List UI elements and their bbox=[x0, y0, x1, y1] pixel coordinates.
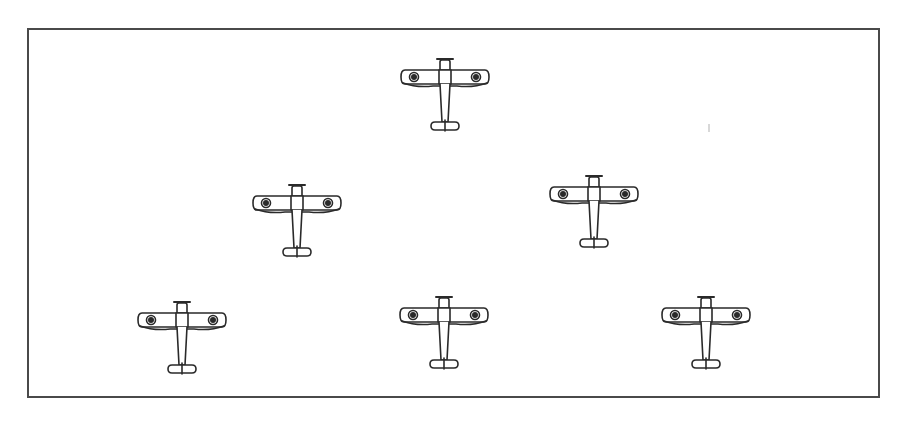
biplane-third-row-center bbox=[396, 294, 492, 374]
biplane-lead bbox=[397, 56, 493, 136]
biplane-second-row-left bbox=[249, 182, 345, 262]
biplane-icon bbox=[546, 173, 642, 253]
biplane-icon bbox=[134, 299, 230, 379]
biplane-icon bbox=[397, 56, 493, 136]
biplane-icon bbox=[396, 294, 492, 374]
biplane-icon bbox=[658, 294, 754, 374]
scan-speck bbox=[708, 124, 710, 132]
biplane-third-row-right bbox=[658, 294, 754, 374]
biplane-second-row-right bbox=[546, 173, 642, 253]
biplane-third-row-left bbox=[134, 299, 230, 379]
biplane-icon bbox=[249, 182, 345, 262]
